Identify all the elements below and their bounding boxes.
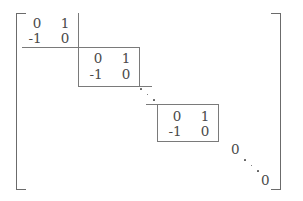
block-2-cell-r1c0: -1: [85, 68, 107, 82]
block-1-cell-r1c0: -1: [24, 32, 46, 46]
block-2-top-rule: [78, 47, 140, 48]
block-3-left-rule: [157, 104, 158, 142]
block-1-bottom-rule: [22, 47, 79, 48]
block-1-cell-r1c1: 0: [58, 32, 72, 46]
matrix-figure: 0 1 -1 0 0 1 -1 0 0 1 -1 0 0 0: [0, 0, 303, 201]
block-3-cell-r0c1: 1: [198, 110, 212, 124]
block-2-cell-r1c1: 0: [119, 68, 133, 82]
block-1-right-rule: [78, 13, 79, 48]
block-1-cell-r0c1: 1: [58, 17, 72, 31]
zero-upper: 0: [231, 143, 240, 157]
block-2-cell-r0c0: 0: [91, 52, 105, 66]
block-2-right-rule: [139, 47, 140, 86]
ddots-between-block2-block3: [139, 87, 159, 103]
block-1-cell-r0c0: 0: [30, 17, 44, 31]
block-3-bottom-rule: [157, 141, 219, 142]
ddots-lower-right: [243, 158, 263, 174]
block-3-right-rule: [218, 104, 219, 142]
block-3-cell-r1c0: -1: [164, 125, 186, 139]
block-2-left-rule: [78, 47, 79, 86]
zero-lower: 0: [261, 174, 270, 188]
right-bracket: [271, 13, 281, 190]
block-2-cell-r0c1: 1: [119, 52, 133, 66]
block-3-cell-r0c0: 0: [170, 110, 184, 124]
block-3-cell-r1c1: 0: [198, 125, 212, 139]
